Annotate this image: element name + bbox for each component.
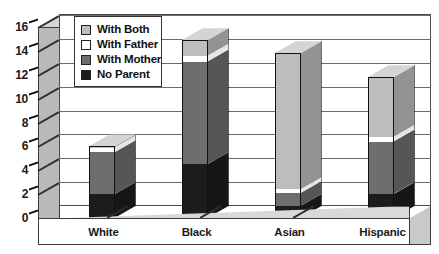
legend-swatch-icon — [81, 40, 91, 50]
bar-segment-side — [394, 65, 415, 137]
legend-item-label: No Parent — [97, 69, 150, 81]
bar-segment-front[interactable] — [368, 137, 394, 142]
legend-item[interactable]: With Father — [81, 37, 154, 52]
legend-item-label: With Father — [97, 39, 158, 51]
legend-item[interactable]: With Mother — [81, 52, 154, 67]
legend-swatch-icon — [81, 25, 91, 35]
x-axis-label-white: White — [88, 226, 118, 238]
legend-item-label: With Both — [97, 24, 149, 36]
x-axis-label-black: Black — [182, 226, 212, 238]
bar-segment-front[interactable] — [368, 142, 394, 195]
legend-item[interactable]: With Both — [81, 22, 154, 37]
legend-item[interactable]: No Parent — [81, 67, 154, 82]
x-axis-label-hispanic: Hispanic — [359, 226, 405, 238]
bar-segment-front[interactable] — [368, 77, 394, 137]
legend-item-label: With Mother — [97, 54, 161, 66]
legend: With BothWith FatherWith MotherNo Parent — [74, 16, 162, 87]
x-axis-label-asian: Asian — [274, 226, 304, 238]
chart-container: 0246810121416 WhiteBlackAsianHispanic Wi… — [0, 0, 439, 254]
legend-swatch-icon — [81, 70, 91, 80]
legend-swatch-icon — [81, 55, 91, 65]
